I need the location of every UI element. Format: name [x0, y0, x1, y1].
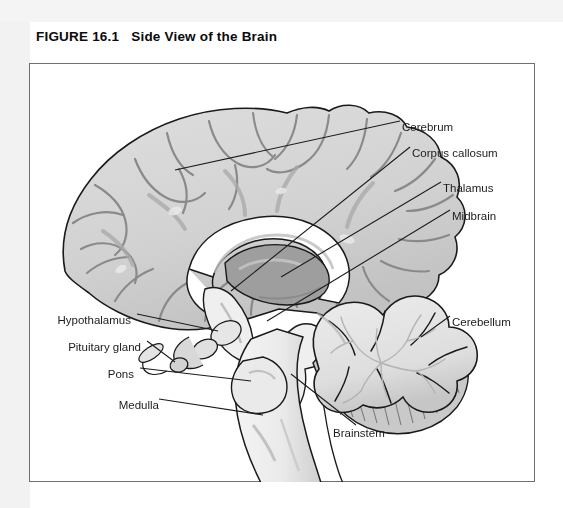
brain-diagram [29, 63, 535, 483]
figure-number: FIGURE 16.1 [36, 29, 119, 44]
label-corpus-callosum: Corpus callosum [412, 147, 498, 159]
label-pons: Pons [74, 368, 134, 380]
label-pituitary-gland: Pituitary gland [56, 341, 141, 353]
page-left-margin-tint [0, 0, 30, 508]
page-top-margin-tint [0, 0, 563, 22]
figure-title: FIGURE 16.1Side View of the Brain [36, 29, 277, 44]
label-cerebrum: Cerebrum [402, 121, 453, 133]
figure-title-text: Side View of the Brain [131, 29, 277, 44]
label-thalamus: Thalamus [443, 182, 494, 194]
label-brainstem: Brainstem [333, 427, 385, 439]
label-cerebellum: Cerebellum [452, 316, 511, 328]
brain-artwork [63, 105, 477, 483]
label-hypothalamus: Hypothalamus [46, 314, 131, 326]
label-medulla: Medulla [99, 399, 159, 411]
label-midbrain: Midbrain [452, 210, 496, 222]
